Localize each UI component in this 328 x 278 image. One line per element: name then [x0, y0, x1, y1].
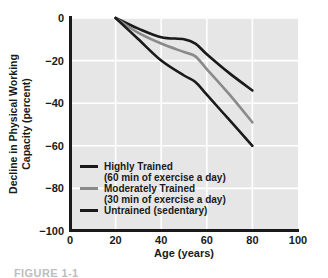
x-axis-tick-labels: 020406080100: [67, 234, 307, 246]
y-axis-tick-labels: 0−20−40−60−80−100: [39, 12, 64, 237]
y-tick-label: −80: [45, 182, 64, 194]
y-tick-label: −100: [39, 225, 64, 237]
y-tick-label: −40: [45, 97, 64, 109]
legend-label: Highly Trained: [104, 161, 173, 172]
y-tick-label: 0: [58, 12, 64, 24]
legend-label: Untrained (sedentary): [104, 205, 207, 216]
figure-chart: 0−20−40−60−80−100 020406080100 Age (year…: [0, 0, 328, 278]
figure-caption: FIGURE 1-1: [14, 267, 79, 278]
x-tick-label: 60: [201, 234, 213, 246]
x-tick-label: 20: [109, 234, 121, 246]
legend-sublabel: (30 min of exercise a day): [104, 194, 226, 205]
y-axis-title-line1: Decline in Physical Working: [7, 54, 19, 194]
x-axis-title: Age (years): [154, 247, 214, 259]
x-tick-label: 40: [155, 234, 167, 246]
x-tick-label: 0: [67, 234, 73, 246]
legend-label: Moderately Trained: [104, 183, 195, 194]
x-tick-label: 80: [246, 234, 258, 246]
y-tick-label: −20: [45, 55, 64, 67]
x-tick-label: 100: [289, 234, 307, 246]
y-axis-title-line2: Capacity (percent): [20, 78, 32, 170]
y-tick-label: −60: [45, 140, 64, 152]
legend-sublabel: (60 min of exercise a day): [104, 172, 226, 183]
